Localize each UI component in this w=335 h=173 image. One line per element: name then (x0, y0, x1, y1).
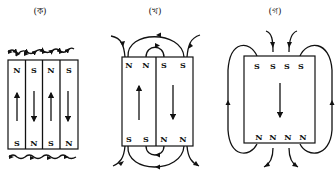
pole-label: S (66, 65, 72, 75)
arrowhead-icon (59, 50, 64, 54)
field-line-in-left (266, 31, 273, 52)
pole-label: N (47, 65, 54, 75)
panel-a: (ক) N S N S S N S N (8, 6, 78, 160)
pole-label: S (31, 65, 37, 75)
field-line-in-right (289, 31, 297, 52)
domain-block-b (122, 57, 193, 146)
pole-label: N (125, 60, 132, 70)
pole-label: N (284, 132, 291, 142)
pole-label: N (160, 134, 167, 144)
pole-label: S (298, 61, 304, 71)
closure-field-top (8, 48, 74, 54)
pole-label: N (299, 132, 306, 142)
pole-label: N (30, 138, 37, 148)
pole-label: S (270, 61, 276, 71)
magnetic-domains-diagram: (ক) N S N S S N S N (খ) (0, 0, 335, 173)
pole-label: S (143, 134, 149, 144)
pole-label: N (13, 65, 20, 75)
panel-a-label: (ক) (33, 6, 46, 16)
pole-label: S (180, 60, 186, 70)
pole-label: N (65, 138, 72, 148)
arrowhead-icon (155, 165, 160, 170)
pole-label: S (126, 134, 132, 144)
pole-label: N (269, 132, 276, 142)
panel-b: (খ) N N S S S S N N (111, 6, 200, 170)
field-line-inner-bottom (146, 146, 164, 155)
pole-label: N (179, 134, 186, 144)
arrowhead-icon (330, 100, 335, 105)
panel-c-label: (গ) (268, 6, 281, 16)
arrowhead-icon (120, 41, 125, 47)
pole-label: N (255, 132, 262, 142)
pole-label: N (142, 60, 149, 70)
field-line-outer-bottom (128, 146, 184, 167)
arrowhead-icon (226, 100, 231, 105)
field-line-inner-top (146, 47, 164, 57)
arrowhead-icon (42, 50, 47, 54)
pole-label: S (14, 138, 20, 148)
pole-label: S (254, 61, 260, 71)
arrowhead-icon (155, 153, 160, 158)
pole-label: S (161, 60, 167, 70)
pole-label: S (48, 138, 54, 148)
panel-c: (গ) S S S S N N N N (226, 6, 335, 167)
panel-b-label: (খ) (148, 6, 161, 16)
field-line-right-top (187, 35, 200, 57)
pole-label: S (284, 61, 290, 71)
